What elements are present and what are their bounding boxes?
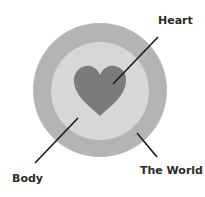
label-body: Body [12,172,43,185]
label-the-world: The World [140,164,203,177]
label-heart: Heart [158,14,193,27]
